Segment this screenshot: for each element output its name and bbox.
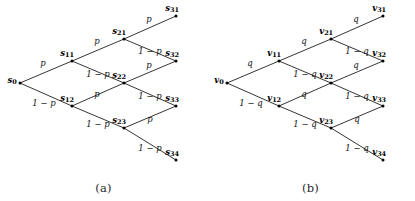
panel-caption-a: (a): [0, 181, 207, 195]
lattice-node-dot: [175, 159, 178, 162]
edge-probability-label: q: [353, 61, 358, 70]
lattice-node-dot: [382, 159, 385, 162]
lattice-edge: [227, 61, 279, 83]
node-label-s32: s32: [165, 49, 178, 59]
binomial-lattice-figure: s0s11s12s21s22s23s31s32s33s34p1 − pp1 − …: [0, 0, 415, 201]
edge-probability-label: 1 − q: [345, 144, 368, 153]
node-label-v0: v0: [214, 76, 223, 86]
edge-probability-label: 1 − p: [138, 144, 161, 153]
edge-probability-label: p: [147, 115, 152, 124]
lattice-node-dot: [71, 105, 74, 108]
edge-probability-label: p: [146, 15, 151, 24]
node-label-s33: s33: [165, 94, 178, 104]
node-label-s11: s11: [60, 49, 73, 59]
edge-probability-label: 1 − q: [345, 92, 368, 101]
edge-probability-label: 1 − q: [293, 120, 316, 129]
node-label-v12: v12: [267, 94, 281, 104]
node-label-v33: v33: [372, 94, 386, 104]
edge-probability-label: p: [94, 37, 99, 46]
node-label-s12: s12: [60, 94, 73, 104]
node-label-v11: v11: [267, 49, 281, 59]
lattice-node-dot: [123, 127, 126, 130]
edge-probability-label: p: [146, 61, 151, 70]
lattice-node-dot: [278, 60, 281, 63]
lattice-node-dot: [382, 15, 385, 18]
edge-probability-label: 1 − p: [138, 47, 161, 56]
edge-probability-label: q: [247, 59, 252, 68]
edge-probability-label: 1 − q: [293, 70, 316, 79]
lattice-node-dot: [330, 38, 333, 41]
lattice-node-dot: [382, 60, 385, 63]
edge-probability-label: q: [354, 115, 359, 124]
node-label-v32: v32: [372, 49, 386, 59]
lattice-edge: [20, 61, 72, 83]
lattice-node-dot: [278, 105, 281, 108]
node-label-s0: s0: [7, 76, 16, 86]
node-label-v31: v31: [372, 4, 386, 14]
node-label-s34: s34: [165, 148, 178, 158]
edge-probability-label: 1 − p: [138, 92, 161, 101]
node-label-v21: v21: [319, 27, 333, 37]
edge-probability-label: p: [40, 59, 45, 68]
edge-probability-label: 1 − q: [345, 47, 368, 56]
edge-probability-label: 1 − p: [86, 120, 109, 129]
lattice-node-dot: [226, 82, 229, 85]
panel-caption-b: (b): [207, 181, 414, 195]
lattice-node-dot: [19, 82, 22, 85]
lattice-node-dot: [175, 60, 178, 63]
edge-probability-label: 1 − q: [239, 99, 262, 108]
edge-probability-label: q: [301, 90, 306, 99]
node-label-v34: v34: [372, 148, 386, 158]
node-label-s31: s31: [165, 4, 178, 14]
lattice-node-dot: [330, 127, 333, 130]
node-label-v23: v23: [319, 116, 333, 126]
lattice-node-dot: [382, 105, 385, 108]
node-label-s23: s23: [112, 116, 125, 126]
lattice-node-dot: [330, 82, 333, 85]
lattice-panel-a: s0s11s12s21s22s23s31s32s33s34p1 − pp1 − …: [0, 0, 207, 201]
lattice-node-dot: [123, 82, 126, 85]
lattice-panel-b: v0v11v12v21v22v23v31v32v33v34q1 − qq1 − …: [207, 0, 414, 201]
edge-probability-label: 1 − p: [32, 99, 55, 108]
lattice-node-dot: [71, 60, 74, 63]
edge-probability-label: p: [94, 90, 99, 99]
node-label-v22: v22: [319, 71, 333, 81]
edge-probability-label: q: [353, 15, 358, 24]
lattice-node-dot: [175, 105, 178, 108]
node-label-s21: s21: [112, 27, 125, 37]
edge-probability-label: q: [301, 37, 306, 46]
lattice-node-dot: [123, 38, 126, 41]
lattice-node-dot: [175, 15, 178, 18]
edge-probability-label: 1 − p: [86, 70, 109, 79]
node-label-s22: s22: [112, 71, 125, 81]
